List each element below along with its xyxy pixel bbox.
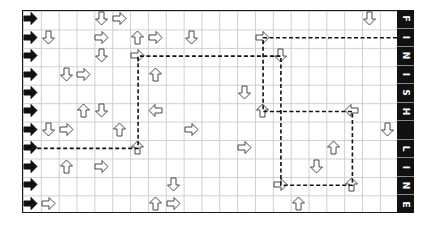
start-arrow-icon: [22, 120, 40, 138]
finish-line-cell: N: [397, 177, 414, 196]
arrow-right-icon[interactable]: [111, 10, 129, 28]
arrow-up-icon[interactable]: [254, 102, 272, 120]
arrow-down-icon[interactable]: [307, 157, 325, 175]
arrow-down-icon[interactable]: [93, 102, 111, 120]
start-arrow-icon: [22, 176, 40, 194]
arrow-down-icon[interactable]: [39, 28, 57, 46]
arrow-down-icon[interactable]: [361, 10, 379, 28]
finish-letter: I: [401, 36, 410, 39]
arrow-up-icon[interactable]: [75, 102, 93, 120]
finish-line-cell: S: [397, 84, 414, 103]
finish-letter: I: [401, 73, 410, 76]
start-arrow-icon: [22, 194, 40, 212]
arrow-down-icon[interactable]: [272, 46, 290, 64]
finish-letter: L: [401, 146, 410, 152]
arrow-up-icon[interactable]: [325, 139, 343, 157]
arrow-up-icon[interactable]: [111, 120, 129, 138]
arrow-right-icon[interactable]: [57, 120, 75, 138]
arrow-down-icon[interactable]: [39, 120, 57, 138]
game-board: [22, 10, 397, 213]
arrow-down-icon[interactable]: [93, 46, 111, 64]
arrow-right-icon[interactable]: [272, 176, 290, 194]
finish-line-cell: I: [397, 158, 414, 177]
arrow-up-icon[interactable]: [129, 139, 147, 157]
arrow-right-icon[interactable]: [236, 139, 254, 157]
start-arrow-icon: [22, 28, 40, 46]
arrow-right-icon[interactable]: [39, 194, 57, 212]
finish-letter: F: [401, 16, 410, 22]
arrow-up-icon[interactable]: [147, 194, 165, 212]
start-arrow-icon: [22, 65, 40, 83]
arrow-up-icon[interactable]: [57, 157, 75, 175]
arrow-right-icon[interactable]: [164, 194, 182, 212]
arrow-right-icon[interactable]: [93, 28, 111, 46]
finish-line-cell: H: [397, 103, 414, 122]
finish-line-column: FINISHLINE: [397, 10, 414, 213]
finish-letter: N: [401, 182, 410, 190]
finish-line-cell: [397, 121, 414, 140]
finish-letter: H: [401, 108, 410, 116]
start-arrow-icon: [22, 83, 40, 101]
finish-line-cell: I: [397, 66, 414, 85]
finish-letter: N: [401, 52, 410, 60]
arrow-up-icon[interactable]: [129, 28, 147, 46]
arrow-right-icon[interactable]: [129, 46, 147, 64]
finish-line-cell: F: [397, 10, 414, 29]
arrow-right-icon[interactable]: [147, 28, 165, 46]
arrow-down-icon[interactable]: [164, 176, 182, 194]
arrow-right-icon[interactable]: [75, 65, 93, 83]
arrow-up-icon[interactable]: [343, 176, 361, 194]
start-arrow-icon: [22, 46, 40, 64]
arrow-right-icon[interactable]: [254, 28, 272, 46]
arrow-down-icon[interactable]: [182, 28, 200, 46]
arrow-right-icon[interactable]: [93, 157, 111, 175]
arrow-right-icon[interactable]: [182, 120, 200, 138]
arrow-down-icon[interactable]: [57, 65, 75, 83]
start-arrow-icon: [22, 10, 40, 28]
arrow-down-icon[interactable]: [236, 83, 254, 101]
finish-line-cell: E: [397, 195, 414, 213]
start-arrow-icon: [22, 139, 40, 157]
arrow-left-icon[interactable]: [147, 102, 165, 120]
start-arrow-icon: [22, 157, 40, 175]
arrow-down-icon[interactable]: [93, 10, 111, 28]
finish-line-cell: L: [397, 140, 414, 159]
arrow-up-icon[interactable]: [147, 65, 165, 83]
finish-letter: E: [401, 201, 410, 207]
arrow-down-icon[interactable]: [379, 120, 397, 138]
finish-letter: S: [401, 90, 410, 96]
arrow-up-icon[interactable]: [289, 194, 307, 212]
start-arrow-icon: [22, 102, 40, 120]
finish-letter: I: [401, 165, 410, 168]
arrow-left-icon[interactable]: [343, 102, 361, 120]
finish-line-cell: N: [397, 47, 414, 66]
finish-line-cell: I: [397, 29, 414, 48]
